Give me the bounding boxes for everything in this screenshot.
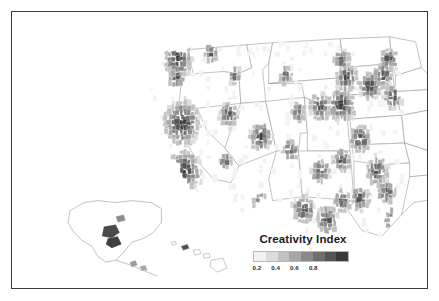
county-patch: [150, 87, 153, 90]
county-patch: [399, 98, 404, 106]
county-patch: [232, 172, 236, 180]
county-patch: [232, 75, 237, 81]
county-patch: [351, 155, 356, 161]
county-patch: [203, 120, 208, 126]
county-patch: [232, 121, 237, 126]
county-patch: [290, 95, 293, 102]
county-patch: [220, 120, 225, 125]
legend-colorbar-wrap: [238, 251, 368, 262]
county-patch: [350, 85, 355, 89]
county-patch: [333, 221, 336, 227]
legend-tick-labels: 0.20.40.60.8: [238, 264, 347, 275]
county-patch: [259, 193, 264, 197]
county-patch: [395, 159, 401, 166]
legend-swatch-7: [336, 252, 348, 261]
county-patch: [331, 226, 337, 232]
county-patch: [346, 192, 350, 198]
county-patch: [239, 207, 244, 212]
county-patch: [251, 145, 256, 149]
legend-tick-2: 0.6: [290, 264, 299, 271]
county-patch: [301, 211, 306, 218]
legend-tick-3: 0.8: [309, 264, 318, 271]
county-patch: [237, 71, 241, 76]
county-patch: [349, 95, 355, 99]
legend-swatch-4: [301, 252, 313, 261]
county-patch: [170, 69, 175, 77]
county-patch: [191, 73, 196, 77]
county-patch: [352, 105, 355, 110]
county-patch: [281, 42, 286, 46]
county-patch: [391, 62, 397, 66]
county-patch: [382, 169, 386, 173]
legend-swatch-6: [325, 252, 337, 261]
county-patch: [186, 71, 191, 76]
county-patch: [226, 154, 229, 161]
county-patch: [182, 173, 187, 178]
county-patch: [214, 56, 219, 61]
county-patch: [187, 129, 192, 134]
county-patch: [288, 101, 294, 107]
county-patch: [336, 80, 340, 86]
county-patch: [354, 70, 359, 76]
county-patch: [324, 51, 327, 57]
county-patch: [391, 193, 396, 197]
county-patch: [168, 80, 172, 86]
county-patch: [380, 130, 386, 136]
county-patch: [233, 196, 238, 202]
county-patch: [176, 116, 180, 119]
legend: Creativity Index 0.20.40.60.8: [238, 233, 368, 275]
county-patch: [386, 223, 391, 228]
county-patch: [298, 84, 302, 91]
county-patch: [252, 204, 256, 209]
county-patch: [213, 178, 217, 183]
legend-swatch-3: [289, 252, 301, 261]
county-patch: [170, 154, 176, 160]
county-patch: [304, 204, 308, 209]
county-patch: [254, 101, 259, 107]
county-patch: [295, 79, 298, 86]
county-patch: [206, 57, 210, 63]
county-patch: [169, 144, 173, 149]
county-patch: [381, 100, 386, 107]
county-patch: [385, 66, 388, 71]
county-patch: [392, 51, 398, 55]
county-patch: [262, 45, 267, 52]
county-patch: [192, 167, 194, 174]
county-patch: [209, 46, 214, 52]
county-patch: [339, 87, 343, 91]
county-patch: [361, 222, 368, 226]
county-patch: [247, 52, 251, 56]
county-patch: [319, 226, 324, 233]
county-patch: [259, 181, 264, 189]
county-patch: [195, 123, 199, 130]
county-patch: [313, 203, 317, 210]
figure-page: Creativity Index 0.20.40.60.8: [0, 0, 439, 301]
county-patch: [206, 130, 212, 137]
county-patch: [294, 155, 298, 160]
county-patch: [373, 89, 377, 95]
county-patch: [300, 114, 306, 120]
county-patch: [324, 143, 329, 150]
county-patch: [343, 115, 346, 122]
county-patch: [191, 104, 195, 111]
county-patch: [206, 105, 209, 110]
county-patch: [178, 67, 185, 72]
county-patch: [377, 207, 381, 213]
county-patch: [392, 130, 397, 134]
county-patch: [231, 183, 236, 190]
county-patch: [153, 95, 157, 101]
county-patch: [317, 154, 321, 158]
hawaii-inset: [171, 241, 227, 272]
legend-swatch-1: [266, 252, 278, 261]
county-patch: [183, 145, 188, 148]
county-patch: [388, 97, 393, 100]
county-patch: [337, 45, 341, 51]
county-patch: [296, 183, 301, 189]
county-patch: [271, 169, 276, 175]
county-patch: [366, 173, 370, 179]
county-patch: [189, 115, 195, 120]
county-patch: [325, 115, 329, 121]
county-patch: [239, 158, 245, 165]
county-patch: [367, 139, 371, 146]
county-patch: [350, 139, 354, 144]
